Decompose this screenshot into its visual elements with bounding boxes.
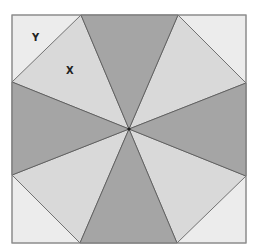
center-point xyxy=(127,127,130,130)
label-y: Y xyxy=(31,31,40,44)
pinwheel-diagram: Y X xyxy=(0,0,258,251)
label-x: X xyxy=(66,64,74,77)
